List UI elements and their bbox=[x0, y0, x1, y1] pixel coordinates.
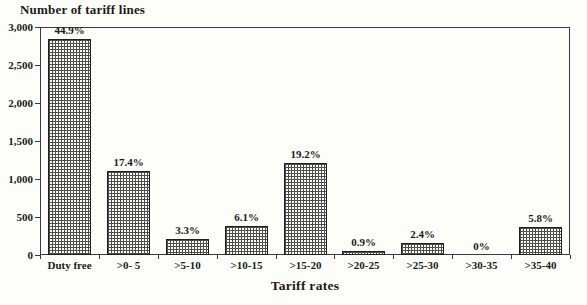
bar-value-label: 2.4% bbox=[393, 227, 452, 241]
chart-layer: 05001,0001,5002,0002,5003,00044.9%Duty f… bbox=[0, 0, 587, 305]
bar bbox=[519, 227, 562, 255]
y-tick-label: 2,000 bbox=[0, 96, 33, 110]
tariff-lines-bar-chart: Number of tariff lines 05001,0001,5002,0… bbox=[0, 0, 587, 305]
bar-value-label: 19.2% bbox=[276, 147, 335, 161]
y-tick-label: 500 bbox=[0, 210, 33, 224]
bar-value-label: 5.8% bbox=[511, 211, 570, 225]
bar-value-label: 44.9% bbox=[40, 23, 99, 37]
y-tick-mark bbox=[35, 179, 40, 180]
y-tick-label: 2,500 bbox=[0, 58, 33, 72]
bar bbox=[107, 171, 150, 255]
y-tick-label: 0 bbox=[0, 248, 33, 262]
y-tick-label: 3,000 bbox=[0, 20, 33, 34]
bar bbox=[342, 251, 385, 255]
bar bbox=[401, 243, 444, 255]
x-category-label: >35-40 bbox=[505, 259, 576, 271]
y-tick-mark bbox=[35, 217, 40, 218]
bar-value-label: 17.4% bbox=[99, 155, 158, 169]
bar-value-label: 0% bbox=[452, 239, 511, 253]
x-axis-title: Tariff rates bbox=[40, 278, 570, 294]
bar bbox=[166, 239, 209, 255]
y-tick-mark bbox=[35, 103, 40, 104]
bar-value-label: 0.9% bbox=[334, 235, 393, 249]
bar bbox=[225, 226, 268, 255]
y-tick-label: 1,000 bbox=[0, 172, 33, 186]
bar-value-label: 3.3% bbox=[158, 223, 217, 237]
bar bbox=[284, 163, 327, 255]
y-tick-mark bbox=[35, 65, 40, 66]
bar-value-label: 6.1% bbox=[217, 210, 276, 224]
y-tick-mark bbox=[35, 141, 40, 142]
y-tick-label: 1,500 bbox=[0, 134, 33, 148]
bar bbox=[48, 39, 91, 255]
